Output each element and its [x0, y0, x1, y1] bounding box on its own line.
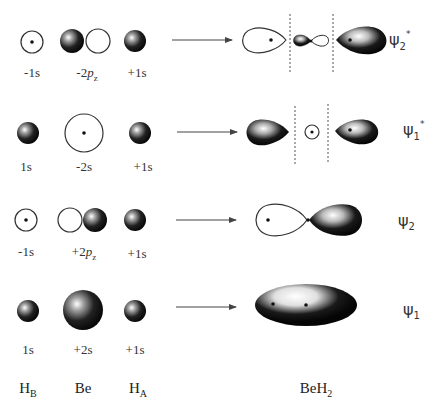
molecule-symbol: BeH [300, 380, 328, 396]
mo-psi2-star [243, 14, 387, 72]
mo-psi1 [255, 284, 357, 326]
atom-subscript: A [140, 388, 147, 399]
hb-label: 1s [22, 343, 34, 356]
atom-symbol: H [19, 380, 30, 396]
hb-1s [17, 122, 39, 144]
psi-symbol: ψ [403, 300, 414, 319]
ha-1s-positive [129, 122, 151, 144]
column-label-beh2: BeH2 [300, 381, 333, 399]
psi-superscript: * [406, 29, 411, 39]
hb-label: -1s [18, 245, 34, 258]
hb-1s-negative [15, 209, 37, 231]
ha-label: +1s [128, 66, 147, 79]
be-2pz-positive [58, 208, 107, 232]
psi-symbol: ψ [403, 120, 414, 139]
psi-subscript: 1 [414, 310, 420, 321]
be-label: +2s [74, 343, 93, 356]
be-2s-positive [63, 290, 103, 330]
row-psi1 [17, 284, 357, 330]
be-label-prefix: +2 [72, 244, 86, 259]
hb-1s [17, 300, 39, 322]
be-label-prefix: -2s [76, 159, 92, 174]
psi-superscript: * [420, 119, 425, 129]
ha-1s-positive [124, 209, 146, 231]
hb-1s-negative [21, 31, 43, 53]
row-psi2-star [21, 14, 387, 72]
ha-label: +1s [134, 160, 153, 173]
be-label: +2pz [72, 245, 96, 262]
be-2pz-negative [60, 29, 110, 53]
row-psi2 [15, 204, 362, 236]
molecule-subscript: 2 [327, 388, 332, 399]
psi-subscript: 2 [400, 41, 406, 52]
mo-psi2 [256, 204, 362, 236]
hb-label: 1s [20, 160, 32, 173]
column-label-ha: HA [129, 381, 147, 399]
mo-label-psi1: ψ1 [403, 302, 420, 321]
ha-1s-positive [124, 300, 146, 322]
psi-subscript: 1 [414, 131, 420, 142]
be-label: -2s [76, 160, 92, 173]
mo-label-psi2-star: ψ2* [389, 32, 410, 52]
atom-subscript: B [30, 388, 37, 399]
row-psi1-star [17, 104, 378, 166]
column-label-hb: HB [19, 381, 37, 399]
psi-symbol: ψ [389, 30, 400, 49]
psi-symbol: ψ [398, 211, 409, 230]
be-label-prefix: +2s [74, 342, 93, 357]
psi-subscript: 2 [409, 221, 415, 232]
mo-psi1-star [247, 104, 379, 166]
ha-1s-positive [124, 30, 146, 52]
ha-label: +1s [126, 343, 145, 356]
atom-symbol: H [129, 380, 140, 396]
be-label-sub: z [94, 73, 98, 83]
be-2s-negative [65, 114, 103, 152]
hb-label: -1s [24, 66, 40, 79]
mo-diagram-canvas [0, 0, 438, 400]
be-label-prefix: -2 [76, 65, 87, 80]
be-label: -2pz [76, 66, 97, 83]
column-label-be: Be [75, 381, 92, 396]
atom-symbol: Be [75, 380, 92, 396]
be-label-sub: z [92, 252, 96, 262]
ha-label: +1s [128, 247, 147, 260]
mo-label-psi1-star: ψ1* [403, 122, 424, 142]
mo-label-psi2: ψ2 [398, 213, 415, 232]
